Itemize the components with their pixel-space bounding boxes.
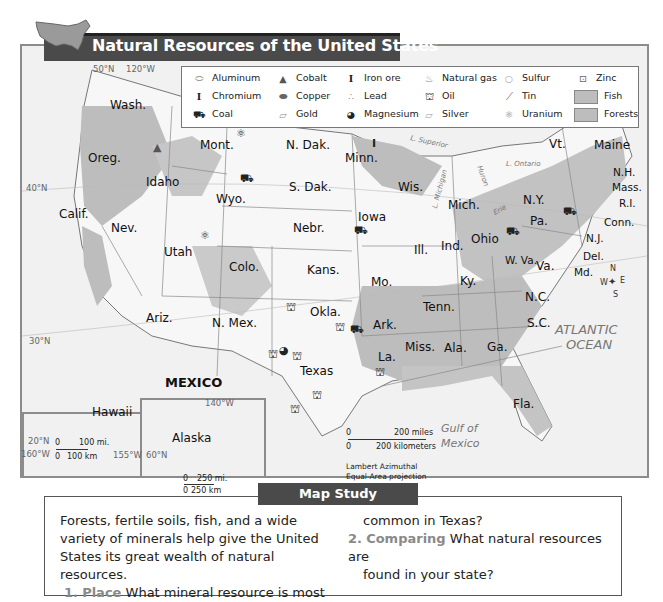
state-label-colo: Colo.: [229, 260, 259, 274]
state-label-del: Del.: [583, 250, 604, 262]
study-left-column: Forests, fertile soils, fish, and a wide…: [60, 512, 330, 602]
legend-item-zinc: ⊡Zinc: [574, 69, 616, 87]
state-label-nj: N.J.: [586, 232, 604, 244]
state-label-ariz: Ariz.: [146, 311, 173, 325]
forests-swatch: [574, 108, 598, 122]
state-label-fla: Fla.: [513, 397, 534, 411]
sulfur-icon: ○: [500, 70, 518, 88]
state-label-mich: Mich.: [448, 198, 480, 212]
legend-item-magnesium: ◕Magnesium: [342, 105, 419, 123]
silver-icon: ▱: [420, 106, 438, 124]
state-label-wash: Wash.: [110, 98, 146, 112]
uranium-icon: ⚛: [500, 106, 518, 124]
study-right-column: common in Texas? 2. Comparing What natur…: [348, 512, 618, 584]
coord-30n: 30°N: [29, 336, 50, 346]
legend-item-silver: ▱Silver: [420, 105, 469, 123]
compass-s: S: [613, 290, 618, 299]
coal-icon: ⛟: [354, 225, 368, 236]
study-intro-line-2: variety of minerals help give the United: [60, 530, 330, 548]
state-label-la: La.: [378, 350, 396, 364]
state-label-ark: Ark.: [373, 318, 397, 332]
state-label-mass: Mass.: [612, 181, 642, 193]
coord-120w: 120°W: [126, 64, 155, 74]
compass-n: N: [610, 264, 616, 273]
compass-w: W: [600, 278, 608, 287]
compass-star-icon: ✦: [608, 276, 616, 287]
state-label-calif: Calif.: [59, 207, 89, 221]
legend-item-forests: Forests: [574, 105, 638, 123]
coord-155w: 155°W: [113, 450, 142, 460]
cobalt-icon: ▲: [153, 142, 161, 153]
state-label-minn: Minn.: [345, 151, 378, 165]
state-label-utah: Utah: [164, 245, 192, 259]
coal-icon: ⛟: [506, 226, 520, 237]
state-label-iowa: Iowa: [358, 210, 386, 224]
oil-icon: ⛫: [268, 349, 278, 360]
state-label-ill: Ill.: [414, 243, 428, 257]
state-label-nc: N.C.: [525, 290, 550, 304]
coal-icon: ⛟: [350, 324, 364, 335]
state-label-vt: Vt.: [549, 137, 566, 151]
state-label-md: Md.: [574, 266, 593, 278]
legend-item-natural-gas: ♨Natural gas: [420, 69, 497, 87]
state-label-wyo: Wyo.: [216, 192, 246, 206]
coord-140w: 140°W: [205, 398, 234, 408]
legend-item-fish: Fish: [574, 87, 622, 105]
state-label-n-mex: N. Mex.: [212, 316, 257, 330]
legend-item-cobalt: ▲Cobalt: [274, 69, 327, 87]
state-label-maine: Maine: [594, 138, 630, 152]
state-label-oreg: Oreg.: [88, 151, 121, 165]
legend-item-coal: ⛟Coal: [190, 105, 233, 123]
magnesium-icon: ◕: [279, 345, 289, 356]
projection-line-2: Equal-Area projection: [346, 472, 466, 482]
legend-item-lead: ∴Lead: [342, 87, 387, 105]
chromium-icon: I: [190, 88, 208, 106]
state-label-okla: Okla.: [310, 305, 341, 319]
state-label-w-va: W. Va.: [505, 254, 537, 266]
oil-icon: ⛫: [292, 351, 302, 362]
map-legend: ⬭Aluminum IChromium ⛟Coal ▲Cobalt ⬬Coppe…: [181, 66, 639, 128]
magnesium-icon: ◕: [342, 106, 360, 124]
state-label-ny: N.Y.: [523, 193, 545, 207]
state-label-ri: R.I.: [619, 197, 636, 209]
coord-40n: 40°N: [26, 183, 47, 193]
oil-icon: ⛫: [286, 302, 296, 313]
uranium-icon: ⚛: [236, 128, 246, 139]
coal-icon: ⛟: [190, 106, 208, 124]
state-label-sc: S.C.: [527, 316, 551, 330]
study-intro-line-3: States its great wealth of natural resou…: [60, 548, 330, 584]
oil-icon: ⛫: [420, 88, 438, 106]
state-label-wis: Wis.: [398, 180, 423, 194]
state-label-ga: Ga.: [487, 340, 507, 354]
legend-item-oil: ⛫Oil: [420, 87, 455, 105]
legend-item-iron-ore: IIron ore: [342, 69, 401, 87]
state-label-idaho: Idaho: [146, 175, 179, 189]
legend-item-tin: ⟋Tin: [500, 87, 536, 105]
tin-icon: ⟋: [500, 88, 518, 106]
legend-item-uranium: ⚛Uranium: [500, 105, 563, 123]
state-label-s-dak: S. Dak.: [289, 180, 332, 194]
state-label-nev: Nev.: [111, 221, 137, 235]
state-label-miss: Miss.: [405, 340, 435, 354]
legend-item-aluminum: ⬭Aluminum: [190, 69, 260, 87]
question-2-continued: found in your state?: [348, 566, 618, 584]
oil-icon: ⛫: [312, 390, 322, 401]
copper-icon: ⬬: [274, 88, 292, 106]
oil-icon: ⛫: [290, 404, 300, 415]
natural-gas-icon: ♨: [420, 70, 438, 88]
map-study-tab: Map Study: [258, 483, 418, 505]
state-label-alaska: Alaska: [172, 431, 211, 445]
state-label-ohio: Ohio: [471, 232, 499, 246]
coal-icon: ⛟: [563, 206, 577, 217]
lake-ontario-label: L. Ontario: [506, 160, 540, 168]
state-label-mont: Mont.: [200, 138, 234, 152]
cobalt-icon: ▲: [274, 70, 292, 88]
map-title: Natural Resources of the United States: [92, 33, 438, 58]
scale-bar: 0 200 miles 0 200 kilometers Lambert Azi…: [346, 428, 466, 482]
state-label-va: Va.: [536, 259, 554, 273]
atlantic-ocean-label-1: ATLANTIC: [555, 322, 618, 337]
coord-20n: 20°N: [28, 436, 49, 446]
state-label-ky: Ky.: [460, 274, 476, 288]
state-label-ind: Ind.: [441, 239, 464, 253]
gold-icon: ▱: [274, 106, 292, 124]
